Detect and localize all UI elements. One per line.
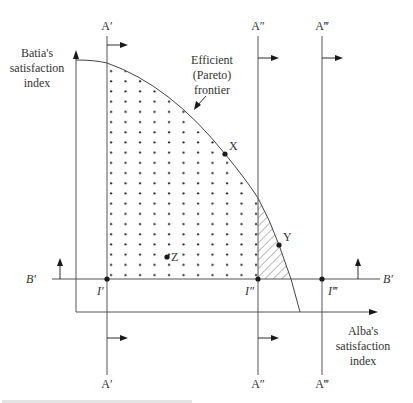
label-b-left: B′ [26, 272, 36, 286]
y-axis-label-line2: satisfaction [10, 61, 65, 75]
point-x-marker [222, 151, 227, 156]
point-y-marker [276, 242, 281, 247]
arrow-right-icon [107, 335, 128, 341]
label-i1: I′ [96, 284, 104, 298]
label-i3: I‴ [327, 284, 338, 298]
arrow-up-icon [355, 258, 361, 279]
label-a2-top: A″ [251, 19, 265, 33]
arrow-right-icon [258, 335, 279, 341]
x-axis-label-line2: satisfaction [336, 339, 391, 353]
dotted-feasible-region [107, 60, 259, 280]
point-i2-marker [255, 276, 260, 281]
label-point-y: Y [283, 230, 292, 244]
label-a3-bottom: A‴ [315, 377, 329, 391]
x-axis-label-line1: Alba's [348, 324, 378, 338]
label-a1-bottom: A′ [101, 377, 113, 391]
y-axis-label-line1: Batia's [21, 46, 53, 60]
arrow-right-icon [258, 55, 279, 61]
frontier-label-line3: frontier [194, 83, 230, 97]
arrow-right-icon [107, 42, 128, 48]
arrow-up-icon [57, 258, 63, 279]
frontier-label-line1: Efficient [191, 53, 233, 67]
label-a2-bottom: A″ [251, 377, 265, 391]
pareto-diagram: A′ A″ A‴ A′ A″ A‴ B′ B′ I′ I″ I‴ X Y Z B… [0, 0, 413, 403]
label-a3-top: A‴ [315, 19, 329, 33]
y-axis-label-line3: index [24, 76, 51, 90]
point-i1-marker [104, 276, 109, 281]
y-axis-arrow-icon [73, 50, 79, 59]
label-b-right: B′ [383, 272, 393, 286]
label-point-x: X [229, 139, 238, 153]
x-axis-arrow-icon [369, 309, 378, 315]
x-axis-label-line3: index [350, 354, 377, 368]
label-point-z: Z [171, 250, 178, 264]
arrow-right-icon [322, 55, 343, 61]
frontier-label-line2: (Pareto) [193, 68, 232, 82]
point-i3-marker [319, 276, 324, 281]
label-i2: I″ [244, 284, 255, 298]
label-a1-top: A′ [101, 19, 113, 33]
point-z-marker [164, 254, 169, 259]
